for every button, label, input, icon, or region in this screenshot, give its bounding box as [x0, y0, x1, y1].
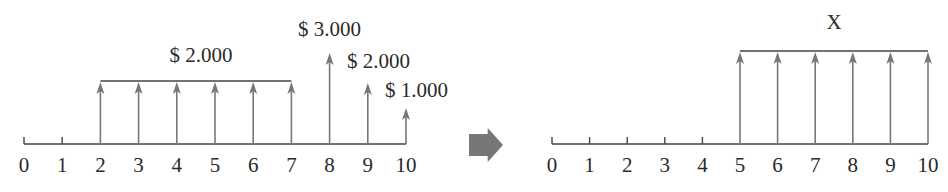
period-label: 0: [19, 153, 30, 177]
period-label: 1: [57, 153, 68, 177]
right-arrow-icon: [469, 128, 503, 162]
period-label: 5: [210, 153, 221, 177]
period-label: 6: [772, 153, 783, 177]
cash-flow-arrow-icon: [886, 52, 894, 144]
period-label: 2: [622, 153, 633, 177]
period-label: 6: [248, 153, 259, 177]
equivalent-cash-flow-diagram: 012345678910X: [547, 10, 939, 177]
cash-amount-label: $ 2.000: [347, 49, 410, 73]
cash-flow-arrow-icon: [774, 52, 782, 144]
period-label: 7: [286, 153, 297, 177]
original-cash-flow-diagram: 012345678910$ 2.000$ 3.000$ 2.000$ 1.000: [19, 17, 448, 177]
cash-flow-arrow-icon: [924, 52, 932, 144]
cash-flow-arrow-icon: [811, 52, 819, 144]
period-label: 3: [133, 153, 144, 177]
cash-flow-arrow-icon: [173, 82, 181, 144]
cash-flow-arrow-icon: [402, 108, 410, 144]
period-label: 2: [95, 153, 106, 177]
period-label: 8: [324, 153, 335, 177]
cash-flow-arrow-icon: [287, 82, 295, 144]
period-label: 1: [584, 153, 595, 177]
period-label: 0: [547, 153, 558, 177]
cash-flow-arrow-icon: [96, 82, 104, 144]
period-label: 5: [735, 153, 746, 177]
period-label: 8: [848, 153, 859, 177]
equivalence-arrow-icon: [469, 128, 503, 162]
cash-flow-arrow-icon: [849, 52, 857, 144]
cash-amount-label: X: [826, 10, 841, 34]
cash-flow-arrow-icon: [364, 83, 372, 144]
period-label: 7: [810, 153, 821, 177]
period-label: 3: [660, 153, 671, 177]
cash-flow-arrow-icon: [736, 52, 744, 144]
cash-flow-arrow-icon: [326, 53, 334, 144]
period-label: 4: [172, 153, 183, 177]
cash-flow-arrow-icon: [249, 82, 257, 144]
cash-flow-arrow-icon: [135, 82, 143, 144]
period-label: 10: [396, 153, 417, 177]
cash-amount-label: $ 2.000: [170, 43, 233, 67]
period-label: 9: [363, 153, 374, 177]
period-label: 4: [697, 153, 708, 177]
cash-flow-arrow-icon: [211, 82, 219, 144]
cash-amount-label: $ 1.000: [385, 78, 448, 102]
period-label: 10: [918, 153, 939, 177]
cash-amount-label: $ 3.000: [298, 17, 361, 41]
cash-flow-equivalence-figure: 012345678910$ 2.000$ 3.000$ 2.000$ 1.000…: [0, 0, 948, 192]
figure-canvas: 012345678910$ 2.000$ 3.000$ 2.000$ 1.000…: [0, 0, 948, 192]
period-label: 9: [885, 153, 896, 177]
